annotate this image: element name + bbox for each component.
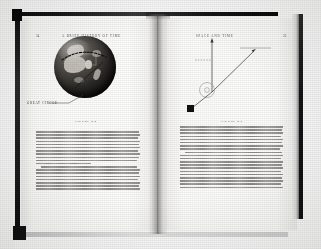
book-cover-left-edge <box>15 12 20 238</box>
text-line <box>180 161 283 163</box>
globe-figure <box>54 36 116 98</box>
background-surface <box>0 0 15 249</box>
text-line <box>36 150 138 152</box>
great-circle-overlay <box>54 36 116 98</box>
text-line <box>36 179 138 181</box>
text-line <box>180 171 281 173</box>
text-line <box>180 187 283 189</box>
text-line <box>180 164 282 166</box>
light-bending-figure <box>185 36 290 116</box>
left-page-body-text <box>36 131 141 192</box>
book-gutter-shadow <box>148 14 168 234</box>
text-line <box>36 131 139 133</box>
book-cover-corner-top-left <box>12 9 22 21</box>
page-block-right-edge <box>292 14 299 219</box>
text-line <box>36 153 140 155</box>
book-spine-crease <box>157 16 158 234</box>
text-line <box>180 155 283 157</box>
text-line <box>180 148 280 150</box>
gutter-top-shadow <box>146 12 170 20</box>
text-line <box>180 177 282 179</box>
right-figure-caption: FIGURE 2.9 <box>212 119 252 123</box>
text-line <box>36 176 140 178</box>
text-line <box>180 129 282 131</box>
great-circle-label: GREAT CIRCLE <box>27 101 58 105</box>
text-line <box>36 185 139 187</box>
right-page-body-text <box>180 126 284 190</box>
text-line <box>180 132 283 134</box>
text-line <box>36 137 138 139</box>
text-line <box>180 126 283 128</box>
text-line <box>36 188 140 190</box>
text-line <box>36 134 140 136</box>
text-line <box>36 147 140 149</box>
book-cover-corner-bottom-left <box>13 226 26 240</box>
text-line <box>36 169 140 171</box>
text-line <box>180 139 283 141</box>
light-bending-diagram <box>185 36 290 116</box>
text-line <box>41 166 137 168</box>
text-line <box>180 180 283 182</box>
text-line <box>36 144 139 146</box>
text-line <box>180 145 283 147</box>
book-photograph: 34 A BRIEF HISTORY OF TIME GREAT CIRCLE … <box>0 0 321 249</box>
left-page-folio: 34 <box>36 34 40 38</box>
text-line <box>180 142 282 144</box>
book-cover-right-edge <box>299 14 303 219</box>
text-line <box>180 136 281 138</box>
text-line <box>36 182 140 184</box>
text-line <box>36 160 137 162</box>
text-line <box>185 152 282 154</box>
text-line <box>180 174 283 176</box>
left-figure-caption: FIGURE 2.8 <box>66 119 106 123</box>
text-line <box>36 141 140 143</box>
text-line <box>36 163 91 165</box>
text-line <box>36 172 139 174</box>
text-line <box>180 167 283 169</box>
text-line <box>180 158 281 160</box>
text-line <box>36 157 139 159</box>
text-line <box>180 183 281 185</box>
